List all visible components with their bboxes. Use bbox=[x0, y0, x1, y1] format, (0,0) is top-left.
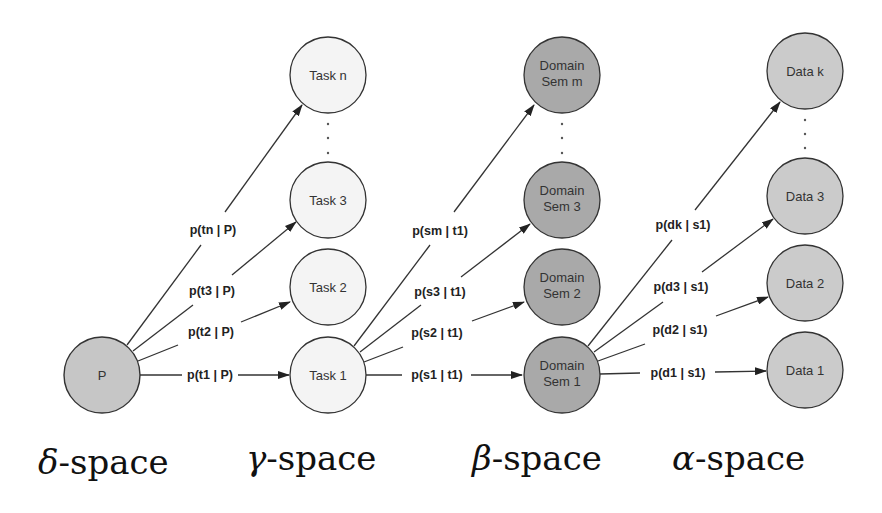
node-sem-m: Domain Sem m bbox=[524, 37, 600, 113]
node-data-1: Data 1 bbox=[767, 332, 843, 408]
beta-column: Domain Sem m Domain Sem 3 Domain Sem 2 D… bbox=[524, 37, 600, 413]
delta-suffix: -space bbox=[58, 442, 168, 482]
edge-label-t1: p(t1 | P) bbox=[187, 368, 233, 382]
node-sem-3-label-2: Sem 3 bbox=[543, 199, 581, 214]
edge-label-s1: p(s1 | t1) bbox=[411, 368, 462, 382]
node-sem-m-label-1: Domain bbox=[540, 58, 585, 73]
edge-label-s2: p(s2 | t1) bbox=[411, 326, 462, 340]
edge-label-d2: p(d2 | s1) bbox=[653, 323, 708, 337]
space-label-beta: β-space bbox=[470, 438, 602, 478]
node-data-k-label: Data k bbox=[786, 64, 824, 79]
node-task-2-label: Task 2 bbox=[309, 280, 347, 295]
alpha-column: Data k Data 3 Data 2 Data 1 bbox=[767, 33, 843, 408]
edge-sem1-data2-a bbox=[598, 344, 645, 361]
node-task-n: Task n bbox=[290, 37, 366, 113]
edge-labels: p(t1 | P) p(t2 | P) p(t3 | P) p(tn | P) … bbox=[187, 218, 710, 382]
node-sem-1: Domain Sem 1 bbox=[524, 337, 600, 413]
space-label-alpha: α-space bbox=[672, 438, 805, 478]
edge-p-task3-b bbox=[232, 222, 296, 275]
beta-suffix: -space bbox=[492, 438, 602, 478]
edge-task1-semm-b bbox=[454, 105, 534, 212]
edge-sem1-data2-b bbox=[716, 297, 768, 316]
node-p: P bbox=[64, 337, 140, 413]
node-sem-2: Domain Sem 2 bbox=[524, 249, 600, 325]
space-labels: δ-space γ-space β-space α-space bbox=[38, 438, 805, 482]
node-task-2: Task 2 bbox=[290, 249, 366, 325]
edge-label-tn: p(tn | P) bbox=[190, 223, 237, 237]
node-data-k: Data k bbox=[767, 33, 843, 109]
node-task-1-label: Task 1 bbox=[309, 368, 347, 383]
diagram-canvas: p(t1 | P) p(t2 | P) p(t3 | P) p(tn | P) … bbox=[0, 0, 882, 513]
node-task-3: Task 3 bbox=[290, 162, 366, 238]
ellipsis-data bbox=[804, 119, 806, 149]
node-task-n-label: Task n bbox=[309, 68, 347, 83]
edge-sem1-data1-a bbox=[600, 373, 640, 374]
node-data-2-label: Data 2 bbox=[786, 276, 824, 291]
node-sem-3-label-1: Domain bbox=[540, 183, 585, 198]
gamma-column: Task n Task 3 Task 2 Task 1 bbox=[290, 37, 366, 413]
node-data-1-label: Data 1 bbox=[786, 363, 824, 378]
node-sem-1-label-1: Domain bbox=[540, 358, 585, 373]
space-label-delta: δ-space bbox=[38, 442, 169, 482]
node-data-3: Data 3 bbox=[767, 158, 843, 234]
edge-label-d3: p(d3 | s1) bbox=[654, 280, 709, 294]
node-task-3-label: Task 3 bbox=[309, 193, 347, 208]
space-label-gamma: γ-space bbox=[246, 438, 376, 478]
beta-symbol: β bbox=[470, 438, 492, 478]
edge-p-task3-a bbox=[133, 305, 193, 351]
gamma-symbol: γ bbox=[246, 438, 267, 478]
edge-p-task2-a bbox=[138, 345, 178, 361]
alpha-suffix: -space bbox=[695, 438, 805, 478]
edge-label-t3: p(t3 | P) bbox=[189, 284, 235, 298]
edge-task1-sem2-a bbox=[364, 347, 403, 362]
node-sem-1-label-2: Sem 1 bbox=[543, 374, 581, 389]
node-sem-2-label-1: Domain bbox=[540, 270, 585, 285]
edge-task1-sem3-b bbox=[461, 224, 530, 277]
edge-label-s3: p(s3 | t1) bbox=[414, 285, 465, 299]
gamma-suffix: -space bbox=[266, 438, 376, 478]
ellipsis-tasks bbox=[327, 123, 329, 154]
node-sem-3: Domain Sem 3 bbox=[524, 162, 600, 238]
delta-symbol: δ bbox=[38, 442, 58, 482]
edge-label-t2: p(t2 | P) bbox=[188, 325, 234, 339]
edge-label-sm: p(sm | t1) bbox=[412, 224, 468, 238]
edge-task1-sem2-b bbox=[472, 302, 524, 321]
ellipsis-sems bbox=[561, 123, 563, 154]
node-data-2: Data 2 bbox=[767, 245, 843, 321]
node-sem-2-label-2: Sem 2 bbox=[543, 286, 581, 301]
alpha-symbol: α bbox=[672, 438, 695, 478]
edge-sem1-data1-b bbox=[715, 371, 766, 372]
node-p-label: P bbox=[98, 368, 107, 383]
edge-label-dk: p(dk | s1) bbox=[656, 218, 711, 232]
edge-label-d1: p(d1 | s1) bbox=[651, 366, 706, 380]
node-task-1: Task 1 bbox=[290, 337, 366, 413]
edge-p-task2-b bbox=[241, 302, 290, 322]
node-sem-m-label-2: Sem m bbox=[541, 74, 582, 89]
node-data-3-label: Data 3 bbox=[786, 189, 824, 204]
edge-sem1-data3-b bbox=[702, 219, 773, 272]
